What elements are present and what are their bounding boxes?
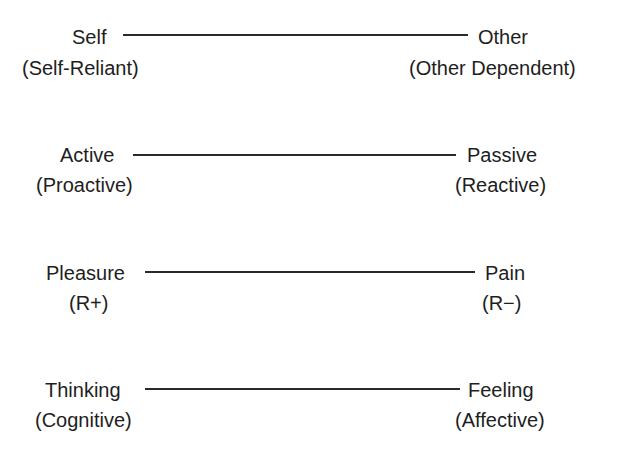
- right-label: Pain: [485, 261, 525, 285]
- right-sublabel: (Reactive): [455, 173, 546, 197]
- right-label: Feeling: [468, 378, 534, 402]
- left-sublabel: (Proactive): [36, 173, 133, 197]
- right-sublabel: (Affective): [455, 408, 545, 432]
- left-label: Pleasure: [46, 261, 125, 285]
- continuum-line: [145, 271, 475, 273]
- left-sublabel: (Cognitive): [35, 408, 132, 432]
- right-label: Other: [478, 25, 528, 49]
- left-label: Thinking: [45, 378, 121, 402]
- right-label: Passive: [467, 143, 537, 167]
- right-sublabel: (R−): [482, 291, 521, 315]
- left-label: Self: [72, 25, 106, 49]
- right-sublabel: (Other Dependent): [409, 56, 576, 80]
- left-sublabel: (Self-Reliant): [22, 56, 139, 80]
- continuum-line: [133, 154, 456, 156]
- continuum-line: [145, 388, 460, 390]
- left-label: Active: [60, 143, 114, 167]
- continuum-line: [123, 34, 468, 36]
- left-sublabel: (R+): [69, 291, 108, 315]
